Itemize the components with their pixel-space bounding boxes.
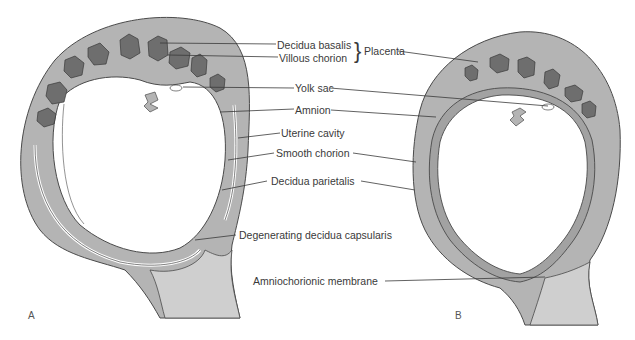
label-villous-chorion: Villous chorion (279, 52, 347, 64)
label-placenta: Placenta (364, 45, 405, 57)
label-uterine-cavity: Uterine cavity (281, 127, 345, 139)
uterus-b (413, 32, 620, 325)
panel-label-a: A (28, 310, 35, 321)
label-smooth-chorion: Smooth chorion (276, 147, 350, 159)
yolk-sac-a (170, 85, 182, 91)
uterus-a (21, 17, 250, 318)
panel-label-b: B (455, 310, 462, 321)
label-decidua-basalis: Decidua basalis (277, 39, 351, 51)
label-amniochorionic-membrane: Amniochorionic membrane (253, 275, 378, 287)
label-yolk-sac: Yolk sac (295, 82, 334, 94)
yolk-sac-b (542, 104, 554, 110)
label-amnion: Amnion (295, 104, 331, 116)
label-degenerating-decidua-capsularis: Degenerating decidua capsularis (239, 229, 392, 241)
uterus-diagram (0, 0, 635, 340)
placenta-brace: } (354, 40, 361, 62)
label-decidua-parietalis: Decidua parietalis (271, 175, 354, 187)
